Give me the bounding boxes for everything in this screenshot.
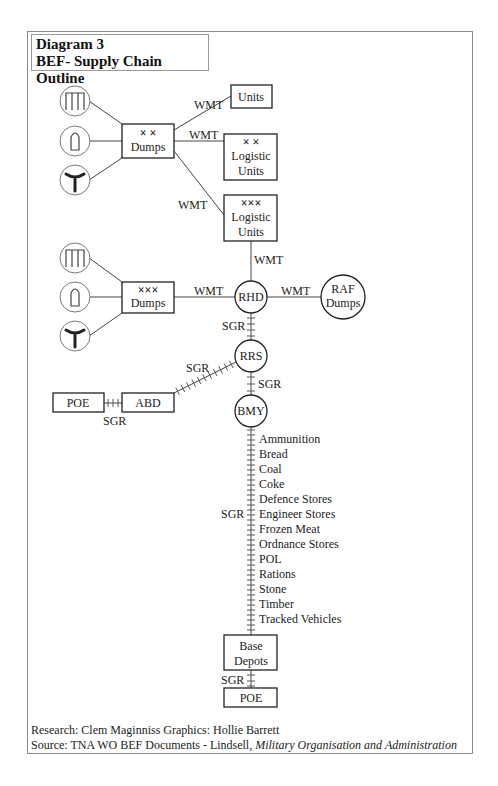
commodity-item: Timber (259, 597, 294, 611)
rail-ties-main (247, 430, 255, 630)
rrs-label: RRS (240, 349, 263, 363)
credits-source: Source: TNA WO BEF Documents - Lindsell,… (31, 738, 457, 753)
wmt-label: WMT (254, 253, 284, 267)
commodity-list: Ammunition Bread Coal Coke Defence Store… (259, 432, 342, 626)
commodity-item: Ammunition (259, 432, 320, 446)
div-logistic-label-1: Logistic (231, 149, 270, 163)
sgr-label: SGR (103, 414, 126, 428)
sgr-label: SGR (258, 377, 281, 391)
source-text: Source: TNA WO BEF Documents - Lindsell, (31, 738, 255, 752)
units-label: Units (238, 90, 264, 104)
wmt-label: WMT (194, 98, 224, 112)
bmy-label: BMY (237, 404, 265, 418)
wmt-label: WMT (189, 128, 219, 142)
commodity-item: POL (259, 552, 282, 566)
base-depots-label-1: Base (239, 639, 262, 653)
div-dumps-label: Dumps (131, 140, 166, 154)
sgr-label: SGR (221, 673, 244, 687)
supply-chain-diagram: × × Dumps Units × × Logistic Units ××× L… (0, 0, 498, 786)
corps-logistic-label-1: Logistic (231, 210, 270, 224)
sgr-label: SGR (222, 319, 245, 333)
corps-symbol: ××× (241, 196, 262, 210)
wmt-label: WMT (194, 284, 224, 298)
credits-research: Research: Clem Maginniss Graphics: Holli… (31, 723, 279, 738)
commodity-item: Defence Stores (259, 492, 332, 506)
source-title: Military Organisation and Administration (255, 738, 457, 752)
wmt-label: WMT (178, 198, 208, 212)
commodity-item: Engineer Stores (259, 507, 336, 521)
commodity-item: Coal (259, 462, 282, 476)
commodity-item: Coke (259, 477, 284, 491)
raf-dumps-label-1: RAF (331, 282, 355, 296)
division-symbol: × × (140, 126, 157, 140)
sgr-label: SGR (186, 361, 209, 375)
corps-logistic-label-2: Units (238, 225, 264, 239)
corps-dumps-label: Dumps (131, 296, 166, 310)
sgr-label: SGR (221, 507, 244, 521)
commodity-item: Tracked Vehicles (259, 612, 342, 626)
poe-bottom-label: POE (240, 691, 263, 705)
div-logistic-label-2: Units (238, 164, 264, 178)
commodity-item: Stone (259, 582, 286, 596)
poe-left-label: POE (67, 396, 90, 410)
base-depots-label-2: Depots (234, 654, 268, 668)
wmt-label: WMT (281, 284, 311, 298)
commodity-item: Frozen Meat (259, 522, 321, 536)
abd-label: ABD (135, 396, 161, 410)
rhd-label: RHD (238, 290, 264, 304)
commodity-item: Rations (259, 567, 296, 581)
commodity-item: Ordnance Stores (259, 537, 339, 551)
corps-symbol: ××× (138, 283, 159, 297)
raf-dumps-label-2: Dumps (326, 296, 361, 310)
commodity-item: Bread (259, 447, 288, 461)
division-symbol: × × (243, 135, 260, 149)
